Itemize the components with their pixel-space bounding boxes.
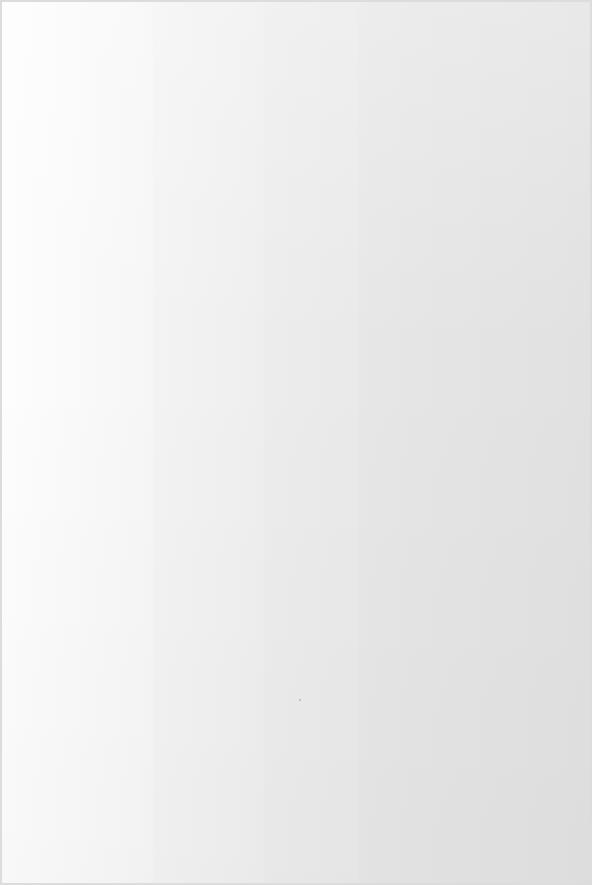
blank-paper-page [0, 0, 592, 885]
page-content [2, 2, 3, 3]
paper-speck [299, 699, 301, 701]
